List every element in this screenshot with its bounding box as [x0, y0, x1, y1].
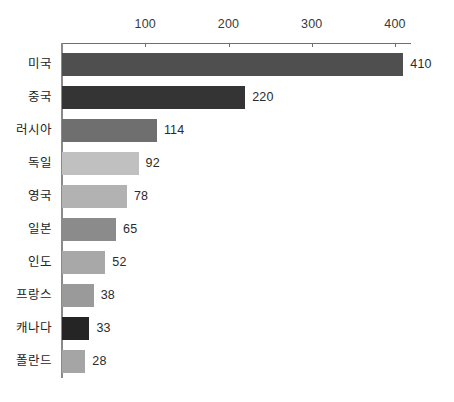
bar-row: 인도52 — [0, 246, 454, 279]
bar[interactable] — [62, 185, 127, 208]
category-label: 폴란드 — [0, 345, 52, 378]
x-axis-tick — [229, 43, 230, 47]
bar[interactable] — [62, 317, 89, 340]
bar-row: 폴란드28 — [0, 345, 454, 378]
bar-value-label: 78 — [134, 185, 148, 208]
x-axis-tick-label: 400 — [384, 17, 405, 31]
x-axis-tick-label: 200 — [218, 17, 239, 31]
bar-row: 프랑스38 — [0, 279, 454, 312]
category-label: 일본 — [0, 213, 52, 246]
bar[interactable] — [62, 86, 245, 109]
category-label: 인도 — [0, 246, 52, 279]
bar-row: 캐나다33 — [0, 312, 454, 345]
bar-value-label: 410 — [410, 53, 431, 76]
bar-value-label: 52 — [112, 251, 126, 274]
bar-row: 러시아114 — [0, 114, 454, 147]
bar[interactable] — [62, 119, 157, 142]
x-axis-tick-label: 100 — [135, 17, 156, 31]
bar[interactable] — [62, 284, 94, 307]
bar[interactable] — [62, 251, 105, 274]
bar-row: 중국220 — [0, 81, 454, 114]
category-label: 영국 — [0, 180, 52, 213]
category-label: 미국 — [0, 48, 52, 81]
category-label: 독일 — [0, 147, 52, 180]
bar-chart: 100200300400 미국410중국220러시아114독일92영국78일본6… — [0, 0, 454, 402]
x-axis-line — [61, 43, 411, 44]
bar-value-label: 220 — [252, 86, 273, 109]
bar-row: 독일92 — [0, 147, 454, 180]
bar[interactable] — [62, 218, 116, 241]
bar-value-label: 65 — [123, 218, 137, 241]
x-axis-tick — [395, 43, 396, 47]
bar-value-label: 28 — [92, 350, 106, 373]
category-label: 캐나다 — [0, 312, 52, 345]
category-label: 러시아 — [0, 114, 52, 147]
category-label: 중국 — [0, 81, 52, 114]
x-axis-tick-label: 300 — [301, 17, 322, 31]
bar-row: 일본65 — [0, 213, 454, 246]
bar[interactable] — [62, 152, 139, 175]
x-axis-tick — [312, 43, 313, 47]
category-label: 프랑스 — [0, 279, 52, 312]
bar-value-label: 38 — [101, 284, 115, 307]
bar[interactable] — [62, 350, 85, 373]
bar-value-label: 33 — [96, 317, 110, 340]
x-axis-tick — [145, 43, 146, 47]
bar[interactable] — [62, 53, 403, 76]
bar-value-label: 114 — [164, 119, 185, 142]
bar-value-label: 92 — [146, 152, 160, 175]
bar-row: 미국410 — [0, 48, 454, 81]
bar-row: 영국78 — [0, 180, 454, 213]
